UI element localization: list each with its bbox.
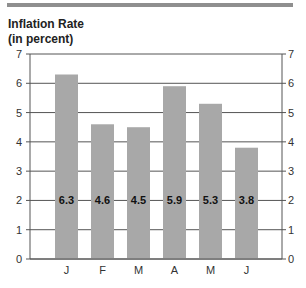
- y-tick-label-left: 6: [16, 77, 22, 89]
- y-tick-label-right: 2: [288, 194, 294, 206]
- bar: [127, 127, 150, 259]
- y-tick-label-right: 7: [288, 48, 294, 60]
- y-tick-label-left: 7: [16, 48, 22, 60]
- bar: [199, 104, 222, 259]
- data-label: 5.3: [203, 194, 218, 206]
- x-tick-label: F: [99, 264, 106, 276]
- data-label: 5.9: [167, 194, 182, 206]
- y-tick-label-right: 5: [288, 107, 294, 119]
- data-label: 4.6: [95, 194, 110, 206]
- x-tick-label: A: [171, 264, 179, 276]
- y-tick-label-right: 1: [288, 224, 294, 236]
- y-tick-label-left: 0: [16, 253, 22, 265]
- bar: [55, 75, 78, 260]
- y-tick-label-right: 6: [288, 77, 294, 89]
- data-label: 6.3: [59, 194, 74, 206]
- y-tick-label-right: 0: [288, 253, 294, 265]
- y-tick-label-left: 2: [16, 194, 22, 206]
- x-tick-label: M: [206, 264, 215, 276]
- x-tick-label: M: [134, 264, 143, 276]
- x-tick-label: J: [64, 264, 70, 276]
- y-tick-label-left: 3: [16, 165, 22, 177]
- y-tick-label-right: 4: [288, 136, 294, 148]
- y-tick-label-left: 5: [16, 107, 22, 119]
- x-tick-label: J: [244, 264, 250, 276]
- y-tick-label-left: 4: [16, 136, 22, 148]
- data-label: 4.5: [131, 194, 146, 206]
- y-tick-label-left: 1: [16, 224, 22, 236]
- bar: [91, 124, 114, 259]
- data-label: 3.8: [239, 194, 254, 206]
- bar: [163, 86, 186, 259]
- y-tick-label-right: 3: [288, 165, 294, 177]
- bar-chart: 00112233445566776.3J4.6F4.5M5.9A5.3M3.8J: [0, 0, 306, 288]
